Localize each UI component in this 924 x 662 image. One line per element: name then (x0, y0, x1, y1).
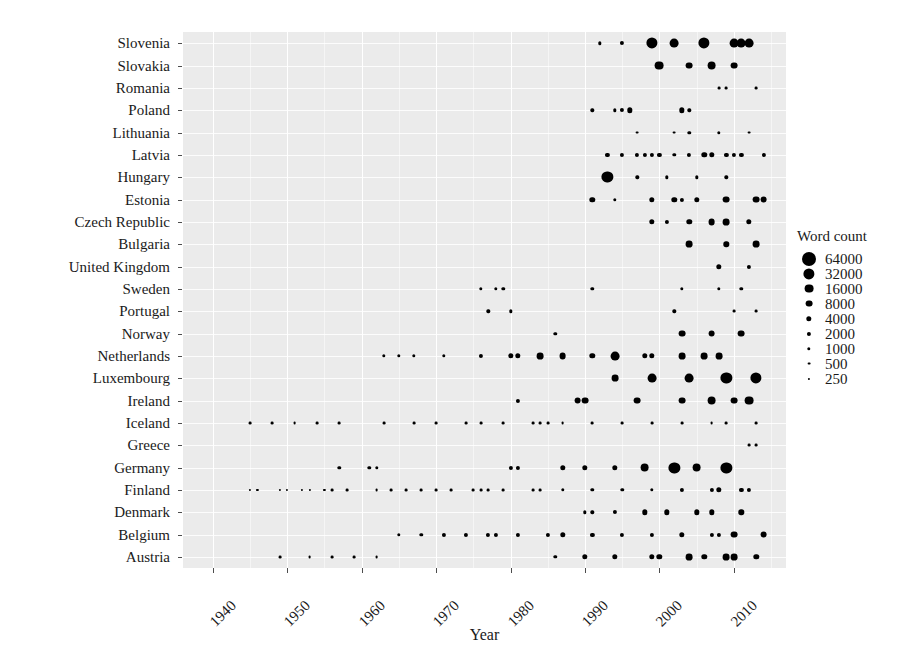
data-point (642, 509, 647, 514)
data-point (664, 509, 669, 514)
data-point (602, 172, 613, 183)
y-axis-tick (178, 133, 182, 134)
data-point (725, 421, 728, 424)
y-axis-label: Slovakia (118, 57, 171, 74)
data-point (725, 175, 728, 178)
legend-row: 1000 (795, 341, 924, 356)
data-point (657, 554, 662, 559)
y-axis-tick (178, 423, 182, 424)
y-axis-label: Sweden (123, 280, 171, 297)
y-axis-tick (178, 289, 182, 290)
data-point (709, 509, 714, 514)
chart-root: SloveniaSlovakiaRomaniaPolandLithuaniaLa… (0, 0, 924, 662)
data-point (487, 309, 490, 312)
data-point (435, 421, 438, 424)
y-axis-tick (178, 66, 182, 67)
data-point (665, 175, 668, 178)
y-axis-tick (178, 88, 182, 89)
data-point (650, 153, 654, 157)
data-point (583, 510, 586, 513)
data-point (673, 309, 676, 312)
data-point (479, 421, 482, 424)
legend-row: 64000 (795, 251, 924, 266)
gridline-vertical-minor (399, 32, 400, 568)
y-axis-label: Austria (126, 548, 170, 565)
data-point (669, 462, 680, 473)
data-point (441, 532, 445, 536)
gridline-vertical-minor (324, 32, 325, 568)
data-point (655, 61, 664, 70)
legend-label: 250 (825, 370, 848, 387)
data-point (620, 108, 624, 112)
gridline-horizontal (183, 267, 786, 268)
data-point (755, 421, 758, 424)
data-point (747, 131, 750, 134)
data-point (590, 353, 595, 358)
data-point (724, 241, 729, 246)
data-point (397, 533, 400, 536)
data-point (308, 555, 311, 558)
data-point (751, 373, 762, 384)
x-axis-tick (287, 568, 288, 573)
data-point (472, 488, 475, 491)
legend-key-dot (808, 377, 810, 379)
y-axis-label: Estonia (125, 191, 170, 208)
y-axis-tick (178, 557, 182, 558)
data-point (680, 287, 683, 290)
y-axis-label: Greece (128, 437, 170, 454)
gridline-horizontal (183, 110, 786, 111)
data-point (515, 353, 520, 358)
y-axis-tick (178, 244, 182, 245)
x-axis: 19401950196019701980199020002010 (0, 568, 924, 580)
data-point (657, 153, 661, 157)
data-point (695, 175, 698, 178)
data-point (716, 352, 723, 359)
data-point (650, 488, 653, 491)
data-point (665, 220, 669, 224)
gridline-horizontal (183, 490, 786, 491)
data-point (701, 352, 708, 359)
gridline-vertical (511, 32, 512, 568)
data-point (699, 38, 710, 49)
data-point (605, 153, 609, 157)
x-axis-tick (585, 568, 586, 573)
data-point (649, 554, 654, 559)
data-point (620, 153, 624, 157)
data-point (554, 332, 557, 335)
y-axis-label: Germany (114, 459, 170, 476)
data-point (680, 197, 684, 201)
data-point (673, 131, 676, 134)
data-point (760, 531, 767, 538)
data-point (271, 421, 274, 424)
legend-row: 500 (795, 356, 924, 371)
gridline-horizontal (183, 334, 786, 335)
data-point (330, 488, 333, 491)
y-axis-label: Bulgaria (118, 236, 170, 253)
data-point (316, 421, 319, 424)
gridline-horizontal (183, 43, 786, 44)
data-point (375, 488, 378, 491)
data-point (686, 241, 693, 248)
legend-key-dot (806, 300, 813, 307)
data-point (539, 488, 542, 491)
data-point (450, 488, 453, 491)
y-axis-tick (178, 401, 182, 402)
data-point (554, 555, 557, 558)
data-point (755, 86, 758, 89)
data-point (642, 353, 647, 358)
data-point (739, 153, 743, 157)
y-axis-label: Slovenia (118, 35, 171, 52)
data-point (636, 131, 639, 134)
data-point (611, 375, 618, 382)
legend-key-dot (807, 347, 810, 350)
data-point (516, 532, 520, 536)
gridline-horizontal (183, 557, 786, 558)
data-point (718, 86, 721, 89)
data-point (717, 532, 721, 536)
y-axis-label: Czech Republic (75, 213, 170, 230)
data-point (686, 62, 693, 69)
data-point (717, 287, 720, 290)
gridline-horizontal (183, 66, 786, 67)
legend-key-dot (808, 362, 811, 365)
data-point (634, 397, 641, 404)
